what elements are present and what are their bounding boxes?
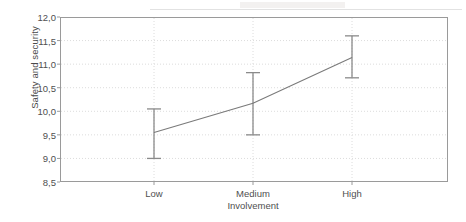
- chart-overlay: [0, 0, 466, 222]
- x-tick-label: Low: [145, 188, 162, 199]
- gridlines: [61, 18, 447, 181]
- chart-figure: Safety and security 8,59,09,510,010,511,…: [0, 0, 466, 222]
- axis-ticks: [57, 17, 352, 185]
- x-tick-label: High: [342, 188, 362, 199]
- x-axis-title: Involvement: [227, 200, 278, 211]
- x-tick-label: Medium: [236, 188, 270, 199]
